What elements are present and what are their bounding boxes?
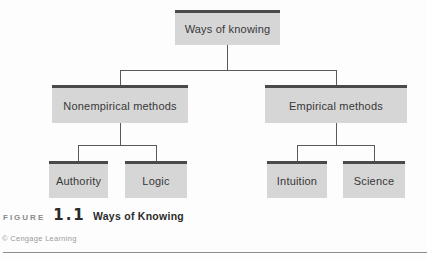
- figure-caption: FIGURE 1.1 Ways of Knowing: [3, 206, 189, 224]
- figure-label: FIGURE: [3, 213, 45, 222]
- figure-number: 1.1: [53, 206, 86, 224]
- connector-to-nonempirical: [120, 70, 121, 85]
- connector-level1-horizontal: [120, 70, 337, 71]
- copyright-credit: © Cengage Learning: [2, 234, 77, 243]
- connector-empirical-stem: [336, 123, 337, 145]
- node-authority: Authority: [49, 161, 108, 198]
- connector-to-logic: [156, 145, 157, 161]
- figure-title: Ways of Knowing: [93, 210, 184, 222]
- bottom-rule: [3, 252, 427, 253]
- node-science: Science: [343, 161, 405, 198]
- connector-to-intuition: [297, 145, 298, 161]
- connector-to-empirical: [336, 70, 337, 85]
- node-intuition: Intuition: [267, 161, 327, 198]
- figure-ways-of-knowing: Ways of knowing Nonempirical methods Emp…: [0, 0, 427, 260]
- connector-to-science: [374, 145, 375, 161]
- connector-left-horizontal: [78, 145, 157, 146]
- node-empirical-methods: Empirical methods: [265, 85, 407, 123]
- node-ways-of-knowing: Ways of knowing: [175, 10, 280, 45]
- connector-right-horizontal: [297, 145, 375, 146]
- connector-to-authority: [78, 145, 79, 161]
- node-nonempirical-methods: Nonempirical methods: [52, 85, 188, 123]
- connector-nonempirical-stem: [120, 123, 121, 145]
- connector-root-stem: [227, 45, 228, 70]
- node-logic: Logic: [125, 161, 187, 198]
